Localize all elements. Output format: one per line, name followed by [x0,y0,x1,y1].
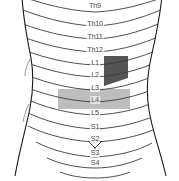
figure-caption [9,172,169,181]
level-label-l3: L3 [90,84,100,92]
level-label-th9: Th9 [88,2,102,10]
level-label-s4: S4 [90,159,100,167]
level-label-th10: Th10 [86,20,104,28]
level-label-s1: S1 [90,123,100,131]
level-label-s3: S3 [90,149,100,157]
level-label-th11: Th11 [86,33,103,41]
level-label-s2: S2 [90,135,100,143]
level-label-l2: L2 [90,71,100,79]
level-label-th12: Th12 [86,46,104,54]
level-label-l5: L5 [90,109,100,117]
level-label-l1: L1 [90,59,100,67]
level-label-l4: L4 [90,96,100,104]
